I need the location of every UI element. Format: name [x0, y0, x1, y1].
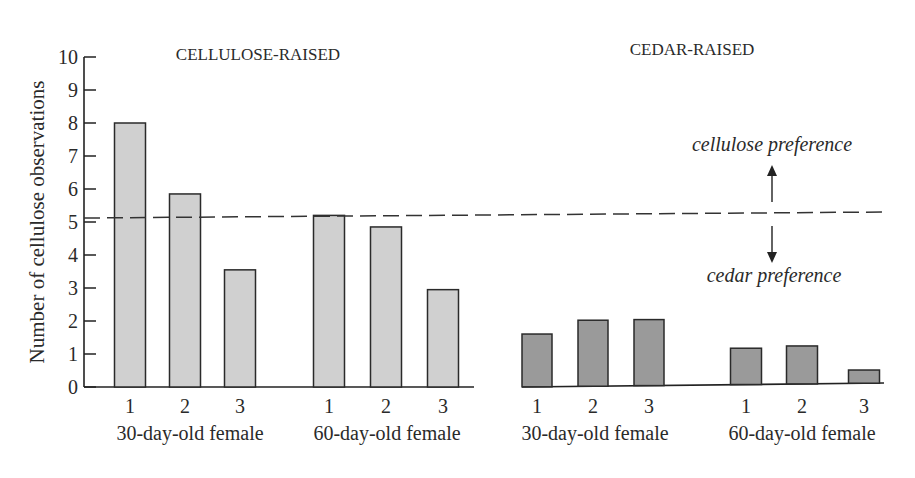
y-tick-label: 2	[68, 310, 78, 332]
x-tick-label: 2	[797, 395, 807, 417]
x-tick-label: 3	[644, 395, 654, 417]
x-tick-label: 1	[532, 395, 542, 417]
y-tick-label: 1	[68, 343, 78, 365]
y-tick-label: 0	[68, 376, 78, 398]
bar	[849, 370, 880, 383]
group-label: 30-day-old female	[116, 422, 263, 445]
bar	[314, 215, 345, 387]
x-tick-label: 1	[324, 395, 334, 417]
bar	[787, 346, 818, 384]
y-tick-label: 10	[58, 46, 78, 68]
y-tick-label: 5	[68, 211, 78, 233]
x-tick-label: 3	[438, 395, 448, 417]
y-tick-label: 8	[68, 112, 78, 134]
group-label: 60-day-old female	[313, 422, 460, 445]
y-tick-label: 4	[68, 244, 78, 266]
x-tick-label: 3	[235, 395, 245, 417]
bar	[170, 194, 201, 387]
panel-title-cellulose: CELLULOSE-RAISED	[176, 45, 340, 64]
panel-title-cedar: CEDAR-RAISED	[630, 40, 755, 59]
arrow-up-icon	[767, 165, 777, 202]
x-tick-label: 3	[859, 395, 869, 417]
group-label: 60-day-old female	[728, 422, 875, 445]
bar	[578, 320, 608, 386]
x-axis-baseline	[522, 383, 884, 387]
annotation-cellulose-preference: cellulose preference	[692, 133, 852, 156]
x-tick-label: 1	[125, 395, 135, 417]
group-label: 30-day-old female	[521, 422, 668, 445]
bar	[731, 348, 762, 384]
arrow-down-icon	[767, 226, 777, 263]
bar	[371, 227, 402, 387]
x-tick-label: 1	[741, 395, 751, 417]
bar-chart: Number of cellulose observations CELLULO…	[0, 0, 915, 478]
reference-line	[84, 212, 886, 218]
annotation-cedar-preference: cedar preference	[707, 264, 842, 287]
y-tick-label: 7	[68, 145, 78, 167]
y-tick-label: 3	[68, 277, 78, 299]
x-tick-label: 2	[588, 395, 598, 417]
y-tick-label: 9	[68, 79, 78, 101]
bar	[225, 270, 256, 387]
x-tick-label: 2	[381, 395, 391, 417]
x-axis-labels: 12330-day-old female12360-day-old female…	[116, 395, 875, 445]
y-axis-label: Number of cellulose observations	[25, 81, 49, 364]
x-tick-label: 2	[180, 395, 190, 417]
bar	[522, 334, 552, 387]
bar	[115, 123, 146, 387]
bar	[634, 320, 664, 386]
bars	[115, 123, 880, 387]
y-tick-label: 6	[68, 178, 78, 200]
bar	[428, 290, 459, 387]
